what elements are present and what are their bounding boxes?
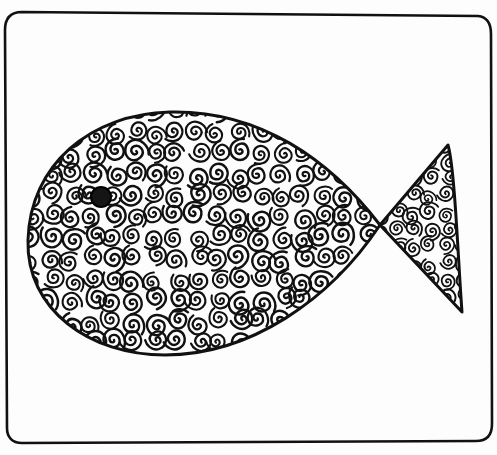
fish-body-pattern	[14, 95, 383, 360]
fish-tail-outline	[380, 145, 462, 312]
fish-drawing	[0, 0, 497, 455]
illustration-canvas: Hand-drawn fish filled with swirl doodle…	[0, 0, 497, 455]
